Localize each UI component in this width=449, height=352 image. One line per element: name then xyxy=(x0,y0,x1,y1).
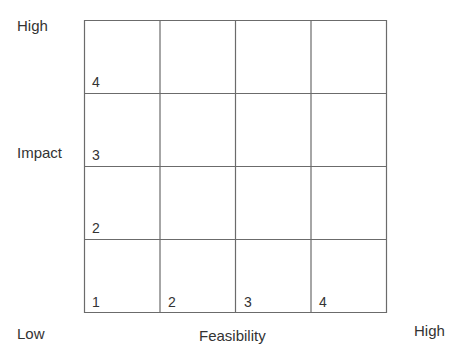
row-number-4: 4 xyxy=(92,75,100,89)
x-axis-low-label: Low xyxy=(17,326,45,341)
x-axis-high-label: High xyxy=(414,323,445,338)
matrix-grid: 4 3 2 1 2 3 4 xyxy=(84,20,387,313)
row-number-2: 2 xyxy=(92,221,100,235)
row-number-3: 3 xyxy=(92,148,100,162)
column-number-2: 2 xyxy=(168,295,176,309)
column-number-3: 3 xyxy=(244,295,252,309)
column-number-1: 1 xyxy=(92,295,100,309)
y-axis-high-label: High xyxy=(17,18,48,33)
y-axis-title: Impact xyxy=(17,145,62,160)
column-number-4: 4 xyxy=(319,295,327,309)
grid-lines xyxy=(84,20,387,313)
x-axis-title: Feasibility xyxy=(199,328,266,343)
